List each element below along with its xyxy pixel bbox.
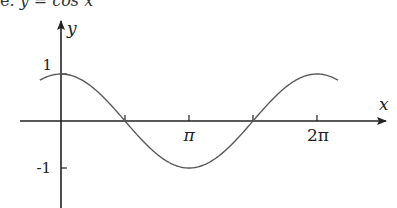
y-tick-label-neg1: -1 xyxy=(36,159,51,177)
cosine-graph: x y π 2π 1 -1 xyxy=(0,0,397,208)
y-tick-label-1: 1 xyxy=(42,56,52,74)
axes xyxy=(20,21,386,208)
x-tick-label-pi: π xyxy=(182,125,195,145)
labels: x y π 2π 1 -1 xyxy=(36,18,389,177)
y-axis-label: y xyxy=(66,18,77,38)
x-tick-label-2pi: 2π xyxy=(307,125,329,145)
x-axis-label: x xyxy=(379,94,389,114)
